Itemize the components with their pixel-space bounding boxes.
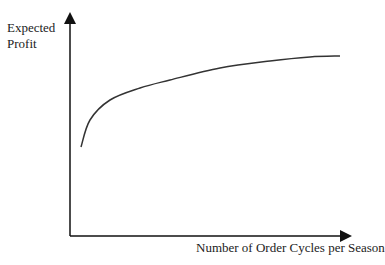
profit-curve bbox=[81, 56, 340, 147]
y-axis-label-line1: Expected bbox=[7, 20, 55, 36]
x-axis-label: Number of Order Cycles per Season bbox=[196, 240, 385, 256]
y-axis-label-line2: Profit bbox=[7, 36, 55, 52]
y-axis-label: Expected Profit bbox=[7, 20, 55, 52]
